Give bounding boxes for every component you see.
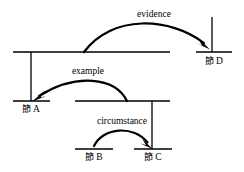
node-label-a-latin: A xyxy=(33,104,40,114)
relation-label-circumstance: circumstance xyxy=(97,116,147,126)
rst-diagram-canvas: evidence example circumstance 節A 節B 節C 節… xyxy=(0,0,244,172)
node-label-c: 節C xyxy=(144,151,161,162)
node-label-b-cjk: 節 xyxy=(85,151,94,162)
relation-arc-example xyxy=(39,81,127,101)
node-label-d-latin: D xyxy=(216,56,223,66)
rst-diagram-svg: evidence example circumstance 節A 節B 節C 節… xyxy=(0,0,244,172)
node-label-b-latin: B xyxy=(96,152,102,162)
node-label-d-cjk: 節 xyxy=(205,55,214,66)
node-label-b: 節B xyxy=(85,151,102,162)
node-label-c-latin: C xyxy=(155,152,161,162)
relation-arc-evidence xyxy=(84,23,204,52)
node-label-d: 節D xyxy=(205,55,223,66)
node-label-a-cjk: 節 xyxy=(22,103,31,114)
node-label-a: 節A xyxy=(22,103,40,114)
relation-label-example: example xyxy=(72,66,104,76)
relation-label-evidence: evidence xyxy=(137,9,171,19)
node-label-c-cjk: 節 xyxy=(144,151,153,162)
relation-arc-circumstance xyxy=(94,130,148,146)
